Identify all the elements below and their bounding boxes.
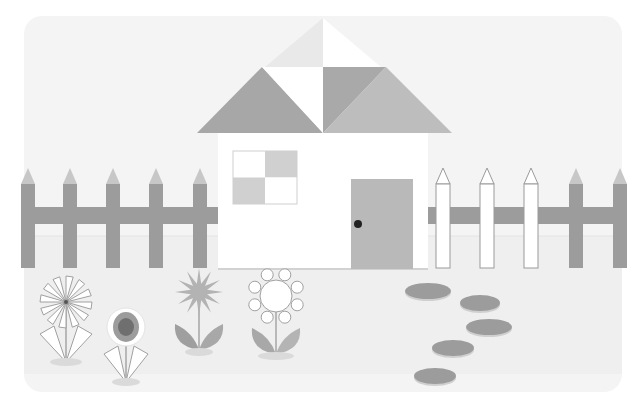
flower-center [260,280,292,312]
picket-board [480,184,494,268]
stone [466,319,512,335]
picket-gray [613,168,627,268]
stone [460,295,500,311]
picket-board [569,184,583,268]
picket-board [63,184,77,268]
picket-gray [63,168,77,268]
window-pane-tr [265,151,297,178]
picket-board [149,184,163,268]
petal [249,281,261,293]
petal [261,311,273,323]
stone [405,283,451,299]
stone [414,368,456,384]
flower-center [191,284,207,300]
window-pane-br [265,178,297,205]
petal [279,311,291,323]
flower-shadow [50,358,82,366]
petal [261,269,273,281]
flower-center [64,300,68,304]
picket-board [524,184,538,268]
picket-white [480,168,494,268]
petal [279,269,291,281]
flower-center [118,318,134,336]
picket-gray [193,168,207,268]
flower-shadow [258,352,294,360]
fence-rail [24,207,218,224]
picket-board [106,184,120,268]
stone [432,340,474,356]
picket-white [436,168,450,268]
door-knob [354,220,362,228]
picket-board [436,184,450,268]
window-pane-bl [233,178,265,205]
petal [291,299,303,311]
flower-shadow [185,348,213,356]
picket-gray [106,168,120,268]
picket-gray [149,168,163,268]
window [233,151,297,204]
picket-board [193,184,207,268]
picket-board [613,184,627,268]
flower-shadow [112,378,140,386]
illustration [0,0,640,410]
picket-gray [569,168,583,268]
window-pane-tl [233,151,265,178]
petal [291,281,303,293]
picket-gray [21,168,35,268]
picket-board [21,184,35,268]
petal [249,299,261,311]
picket-white [524,168,538,268]
